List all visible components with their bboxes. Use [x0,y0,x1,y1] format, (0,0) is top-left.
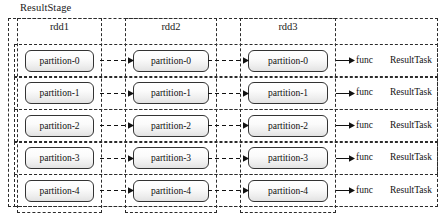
partition-box[interactable]: partition-0 [248,50,328,72]
func-label: func [356,185,373,195]
arrow-rdd3-to-func [336,186,355,195]
arrow-rdd1-to-rdd2 [100,56,134,65]
partition-box[interactable]: partition-3 [248,147,328,169]
arrow-rdd3-to-func [336,121,355,130]
partition-box[interactable]: partition-1 [25,82,94,104]
rdd-label-1: rdd1 [17,21,102,32]
partition-box[interactable]: partition-2 [25,115,94,137]
arrow-rdd1-to-rdd2 [100,89,134,98]
diagram-canvas: ResultStage rdd1 rdd2 rdd3 partition-0pa… [0,0,444,224]
arrow-rdd1-to-rdd2 [100,154,134,163]
func-label: func [356,152,373,162]
arrow-rdd2-to-rdd3 [208,56,249,65]
partition-box[interactable]: partition-4 [248,180,328,202]
arrow-rdd1-to-rdd2 [100,121,134,130]
func-label: func [356,87,373,97]
result-task-label: ResultTask [386,185,436,195]
arrow-rdd3-to-func [336,154,355,163]
func-label: func [356,55,373,65]
result-task-label: ResultTask [386,152,436,162]
partition-box[interactable]: partition-3 [133,147,209,169]
partition-box[interactable]: partition-4 [25,180,94,202]
arrow-rdd3-to-func [336,89,355,98]
result-task-label: ResultTask [386,55,436,65]
arrow-rdd2-to-rdd3 [208,154,249,163]
rdd-label-2: rdd2 [125,21,217,32]
rdd-label-3: rdd3 [240,21,336,32]
arrow-rdd2-to-rdd3 [208,186,249,195]
result-task-label: ResultTask [386,87,436,97]
partition-box[interactable]: partition-0 [25,50,94,72]
partition-box[interactable]: partition-2 [248,115,328,137]
arrow-rdd3-to-func [336,56,355,65]
stage-label: ResultStage [20,2,71,13]
arrow-rdd1-to-rdd2 [100,186,134,195]
partition-box[interactable]: partition-4 [133,180,209,202]
arrow-rdd2-to-rdd3 [208,89,249,98]
arrow-rdd2-to-rdd3 [208,121,249,130]
func-label: func [356,120,373,130]
partition-box[interactable]: partition-2 [133,115,209,137]
partition-box[interactable]: partition-1 [248,82,328,104]
partition-box[interactable]: partition-1 [133,82,209,104]
partition-box[interactable]: partition-0 [133,50,209,72]
partition-box[interactable]: partition-3 [25,147,94,169]
result-task-label: ResultTask [386,120,436,130]
